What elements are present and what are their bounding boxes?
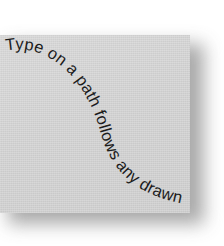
- image-canvas: Type on a path follows any drawn line: [0, 0, 224, 246]
- path-text-content: Type on a path follows any drawn line: [0, 20, 184, 206]
- type-on-path-graphic: Type on a path follows any drawn line: [0, 35, 190, 213]
- path-text-label: Type on a path follows any drawn line: [0, 20, 184, 206]
